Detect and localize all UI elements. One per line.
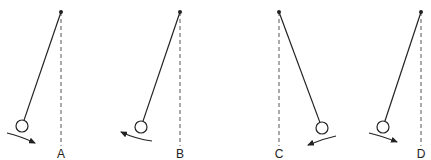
pendulum-d: D	[369, 10, 426, 160]
pendulum-string	[279, 12, 320, 122]
pendulum-bob	[16, 120, 28, 132]
pendulum-c: C	[275, 10, 336, 160]
pendulum-a: A	[7, 10, 65, 160]
pivot-point	[419, 10, 423, 14]
option-label: B	[176, 147, 184, 160]
pendulum-bob	[316, 122, 328, 134]
pivot-point	[59, 10, 63, 14]
pendulum-b: B	[121, 10, 184, 160]
motion-arrow-icon	[369, 133, 397, 142]
pivot-point	[277, 10, 281, 14]
pendulum-string	[385, 12, 421, 121]
pendulum-string	[143, 12, 180, 121]
pendulum-bob	[135, 121, 147, 133]
pendulum-string	[24, 12, 61, 120]
motion-arrow-icon	[7, 133, 35, 143]
motion-arrow-icon	[308, 136, 336, 145]
option-label: A	[57, 147, 65, 160]
motion-arrow-icon	[121, 132, 152, 141]
pivot-point	[178, 10, 182, 14]
option-label: D	[417, 147, 426, 160]
pendulum-bob	[377, 121, 389, 133]
pendulum-diagram: A B C D	[0, 0, 431, 160]
option-label: C	[275, 147, 284, 160]
